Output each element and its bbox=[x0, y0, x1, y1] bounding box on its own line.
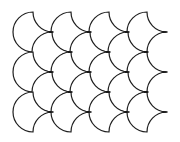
fish-scale-pattern bbox=[0, 0, 180, 142]
